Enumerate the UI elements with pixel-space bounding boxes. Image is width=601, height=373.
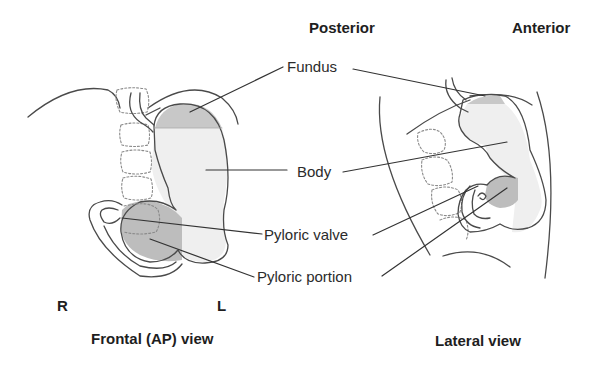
- leader-fundus-lateral: [353, 69, 485, 96]
- frontal-esophagus-inner: [140, 93, 154, 125]
- lateral-vertebra-1: [418, 129, 446, 153]
- frontal-view-drawing: [28, 88, 238, 277]
- vertebra-3: [121, 150, 152, 174]
- lateral-view-drawing: [379, 78, 551, 278]
- lateral-anterior-wall: [537, 92, 551, 278]
- fundus-label: Fundus: [287, 59, 337, 74]
- pyloric-valve-label: Pyloric valve: [264, 227, 348, 242]
- lateral-vertebra-2: [422, 157, 453, 186]
- leader-body-lateral: [343, 142, 507, 172]
- posterior-label: Posterior: [309, 20, 375, 35]
- body-label: Body: [297, 164, 331, 179]
- diaphragm-right-arc: [28, 89, 120, 117]
- lateral-esophagus: [446, 78, 468, 112]
- pyloric-portion-label: Pyloric portion: [257, 269, 352, 284]
- diagram-artwork: [0, 0, 601, 373]
- vertebra-4: [122, 176, 153, 200]
- vertebra-2: [120, 123, 150, 147]
- lateral-posterior-wall: [379, 97, 430, 255]
- left-side-label: L: [217, 298, 226, 313]
- frontal-view-caption: Frontal (AP) view: [91, 331, 214, 346]
- lateral-lower-arc: [443, 252, 510, 267]
- vertebra-1: [116, 88, 149, 114]
- anterior-label: Anterior: [512, 20, 570, 35]
- leader-fundus-frontal: [190, 67, 283, 112]
- lateral-view-caption: Lateral view: [435, 333, 521, 348]
- right-side-label: R: [57, 298, 68, 313]
- stomach-diagram: Posterior Anterior R L Fundus Body Pylor…: [0, 0, 601, 373]
